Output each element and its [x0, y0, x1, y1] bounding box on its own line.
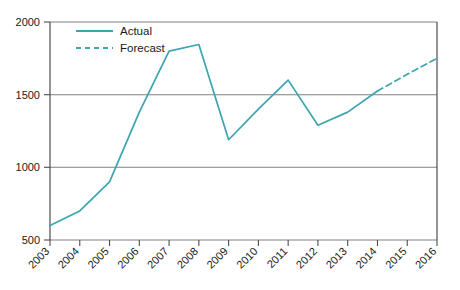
y-tick-label-500: 500: [22, 234, 40, 246]
x-tick-label-2014: 2014: [353, 245, 379, 271]
x-tick-marks: [50, 240, 437, 246]
legend-label-actual: Actual: [120, 25, 152, 37]
y-tick-label-2000: 2000: [16, 16, 40, 28]
x-tick-label-2012: 2012: [294, 245, 320, 271]
x-tick-label-2007: 2007: [145, 245, 171, 271]
x-tick-label-2013: 2013: [323, 245, 349, 271]
x-tick-label-2004: 2004: [55, 245, 81, 271]
x-tick-label-2010: 2010: [234, 245, 260, 271]
x-tick-label-2003: 2003: [26, 245, 52, 271]
y-tick-marks: [44, 22, 50, 240]
line-chart: 2000 1500 1000 500 200320042005200620072…: [0, 0, 460, 290]
legend-label-forecast: Forecast: [120, 42, 166, 54]
x-tick-label-2016: 2016: [413, 245, 439, 271]
x-tick-label-2006: 2006: [115, 245, 141, 271]
x-tick-label-2009: 2009: [204, 245, 230, 271]
chart-canvas: 2000 1500 1000 500 200320042005200620072…: [0, 0, 460, 290]
x-tick-label-2011: 2011: [264, 245, 289, 270]
x-tick-label-2015: 2015: [383, 245, 409, 271]
y-tick-label-1500: 1500: [16, 89, 40, 101]
x-tick-labels: 2003200420052006200720082009201020112012…: [26, 245, 439, 271]
plot-area-background: [50, 22, 437, 240]
x-tick-label-2008: 2008: [174, 245, 200, 271]
y-tick-label-1000: 1000: [16, 161, 40, 173]
y-tick-labels: 2000 1500 1000 500: [16, 16, 40, 246]
x-tick-label-2005: 2005: [85, 245, 111, 271]
